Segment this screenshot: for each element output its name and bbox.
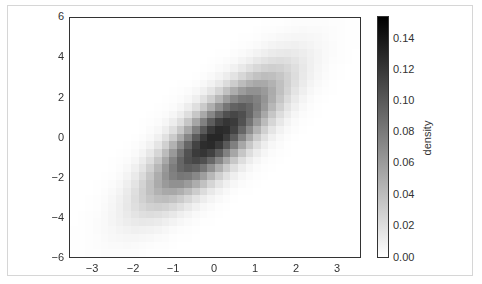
- x-tick-label: 2: [284, 262, 308, 274]
- x-tick-label: 3: [325, 262, 349, 274]
- y-tick-label: 4: [42, 50, 64, 62]
- colorbar-tick-label: 0.04: [393, 188, 414, 200]
- y-tick-label: 0: [42, 131, 64, 143]
- density-heatmap: [70, 18, 360, 257]
- colorbar-tick-label: 0.14: [393, 32, 414, 44]
- y-tick-label: −4: [42, 211, 64, 223]
- y-tick-label: −6: [42, 251, 64, 263]
- heatmap-plot-area: [69, 17, 361, 258]
- x-tick-label: −3: [80, 262, 104, 274]
- y-tick-label: 2: [42, 91, 64, 103]
- x-tick-label: −1: [161, 262, 185, 274]
- colorbar-tick-label: 0.12: [393, 63, 414, 75]
- colorbar-tick-label: 0.06: [393, 156, 414, 168]
- x-tick-label: 1: [243, 262, 267, 274]
- x-tick-label: 0: [202, 262, 226, 274]
- colorbar-tick-label: 0.08: [393, 125, 414, 137]
- colorbar-label: density: [421, 121, 433, 156]
- colorbar-tick-label: 0.10: [393, 94, 414, 106]
- x-tick-label: −2: [121, 262, 145, 274]
- colorbar: [377, 16, 389, 258]
- y-tick-label: −2: [42, 171, 64, 183]
- colorbar-tick-label: 0.00: [393, 251, 414, 263]
- y-tick-label: 6: [42, 10, 64, 22]
- colorbar-tick-label: 0.02: [393, 219, 414, 231]
